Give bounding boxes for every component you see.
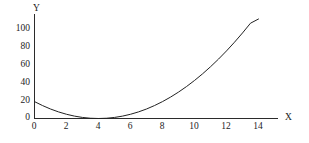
x-tick-label-6: 6 [122,121,138,131]
x-tick-label-12: 12 [218,121,234,131]
x-tick-label-14: 14 [250,121,266,131]
x-tick-label-8: 8 [154,121,170,131]
y-axis-title: Y [33,3,40,13]
chart-container: 100 80 60 40 20 0 0 2 4 6 8 10 12 14 Y X [0,0,309,143]
y-tick-label-40: 40 [0,77,30,87]
x-axis-title: X [285,112,292,122]
x-tick-label-0: 0 [26,121,42,131]
x-tick-label-2: 2 [58,121,74,131]
data-series-parabola [35,19,259,119]
y-tick-label-80: 80 [0,41,30,51]
y-tick-label-20: 20 [0,95,30,105]
x-tick-label-4: 4 [90,121,106,131]
y-tick-label-100: 100 [0,23,30,33]
y-tick-label-60: 60 [0,59,30,69]
x-tick-label-10: 10 [186,121,202,131]
